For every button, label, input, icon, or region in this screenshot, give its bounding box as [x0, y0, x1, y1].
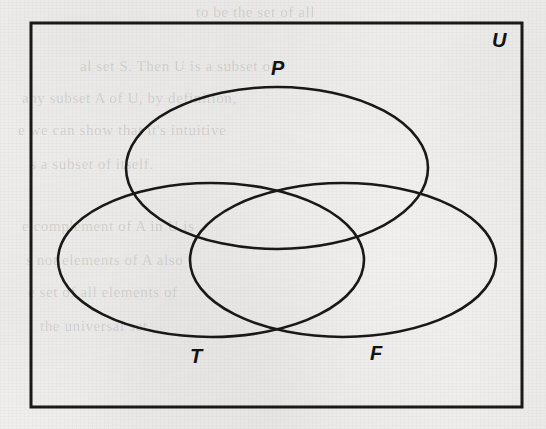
- set-label-p: P: [271, 58, 284, 78]
- set-label-universe: U: [492, 30, 506, 50]
- universal-set-rectangle: [31, 23, 522, 407]
- set-circle-f: [190, 183, 496, 337]
- set-circle-p: [126, 87, 428, 249]
- set-label-t: T: [190, 346, 202, 366]
- set-circle-t: [58, 183, 364, 337]
- set-label-f: F: [370, 343, 382, 363]
- scanned-page: to be the set of allal set S. Then U is …: [0, 0, 546, 429]
